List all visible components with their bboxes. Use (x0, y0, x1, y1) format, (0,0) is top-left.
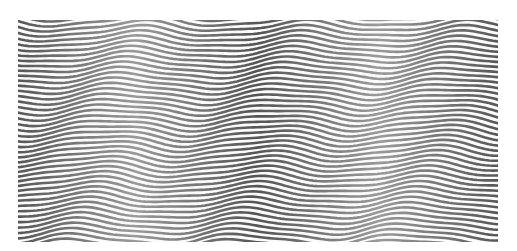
wave-pattern-artwork (18, 20, 498, 242)
wave-stripe (18, 20, 498, 27)
wave-stripes (18, 20, 498, 242)
wave-stripe (18, 239, 498, 242)
wave-stripe (18, 228, 498, 241)
